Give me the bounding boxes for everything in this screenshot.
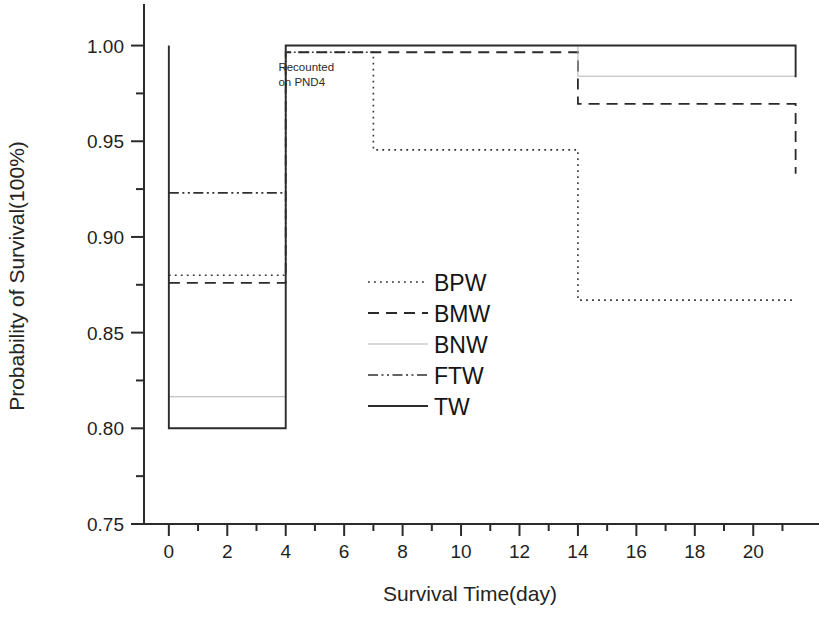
y-tick-label: 0.90 <box>87 227 124 248</box>
y-tick-label: 0.75 <box>87 514 124 535</box>
y-tick-label: 1.00 <box>87 36 124 57</box>
x-tick-label: 14 <box>567 541 589 562</box>
recounted-note-line2: on PND4 <box>278 76 325 88</box>
series-line-bmw <box>169 52 796 283</box>
recounted-note-line1: Recounted <box>278 61 334 73</box>
x-tick-label: 18 <box>684 541 705 562</box>
x-tick-label: 8 <box>397 541 408 562</box>
y-axis-tick-labels: 0.750.800.850.900.951.00 <box>87 36 124 535</box>
legend-label-bpw: BPW <box>434 270 487 296</box>
axis-lines <box>144 4 819 524</box>
x-tick-label: 20 <box>743 541 764 562</box>
x-tick-label: 6 <box>339 541 350 562</box>
legend-label-tw: TW <box>434 394 470 420</box>
y-tick-label: 0.80 <box>87 418 124 439</box>
x-tick-label: 0 <box>164 541 175 562</box>
chart-legend: BPWBMWBNWFTWTW <box>368 270 491 420</box>
series-line-bpw <box>169 52 796 300</box>
legend-label-bmw: BMW <box>434 301 491 327</box>
y-axis-ticks <box>131 46 144 524</box>
x-axis-title: Survival Time(day) <box>383 582 557 605</box>
y-axis-title: Probability of Survival(100%) <box>5 141 28 411</box>
y-tick-label: 0.85 <box>87 323 124 344</box>
x-tick-label: 10 <box>450 541 471 562</box>
legend-label-bnw: BNW <box>434 332 488 358</box>
survival-chart-figure: 0.750.800.850.900.951.00 024681012141618… <box>0 0 819 620</box>
chart-annotations: Recountedon PND4 <box>278 61 334 88</box>
x-tick-label: 2 <box>222 541 233 562</box>
y-tick-label: 0.95 <box>87 131 124 152</box>
plot-canvas: 0.750.800.850.900.951.00 024681012141618… <box>0 0 819 620</box>
x-axis-ticks <box>169 524 783 536</box>
legend-label-ftw: FTW <box>434 363 484 389</box>
x-tick-label: 4 <box>280 541 291 562</box>
x-tick-label: 12 <box>509 541 530 562</box>
x-axis-tick-labels: 02468101214161820 <box>164 541 764 562</box>
x-tick-label: 16 <box>626 541 647 562</box>
